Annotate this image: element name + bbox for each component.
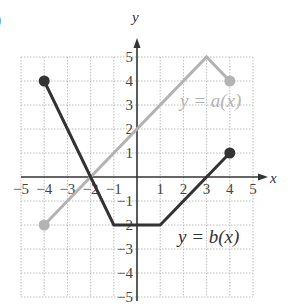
panel-label: ): [0, 6, 1, 31]
endpoint-dot: [224, 76, 235, 87]
y-tick-label: −5: [117, 289, 133, 305]
x-tick-label: 4: [226, 181, 234, 197]
x-tick-label: 3: [203, 181, 211, 197]
x-tick-label: 5: [249, 181, 257, 197]
endpoint-dot: [39, 76, 50, 87]
x-tick-label: −4: [36, 181, 52, 197]
y-axis-label: y: [130, 9, 139, 25]
y-tick-label: −1: [117, 193, 133, 209]
x-tick-label: −5: [13, 181, 29, 197]
x-tick-label: 2: [180, 181, 188, 197]
endpoint-dot: [224, 148, 235, 159]
y-tick-label: 4: [126, 73, 134, 89]
x-axis-label: x: [269, 170, 277, 186]
series-b-label: y = b(x): [176, 226, 239, 248]
endpoint-dot: [39, 220, 50, 231]
y-tick-label: 1: [126, 145, 134, 161]
y-tick-label: 5: [126, 49, 134, 65]
function-graph: ) −5−4−3−2−112345−5−4−3−2−112345 y x y =…: [0, 0, 292, 306]
y-axis-arrow-icon: [134, 38, 141, 48]
y-tick-label: −3: [117, 241, 133, 257]
y-tick-label: 3: [126, 97, 134, 113]
y-tick-label: −4: [117, 265, 133, 281]
x-axis-arrow-icon: [258, 174, 268, 181]
x-tick-label: 1: [156, 181, 164, 197]
series-a-label: y = a(x): [178, 90, 241, 112]
